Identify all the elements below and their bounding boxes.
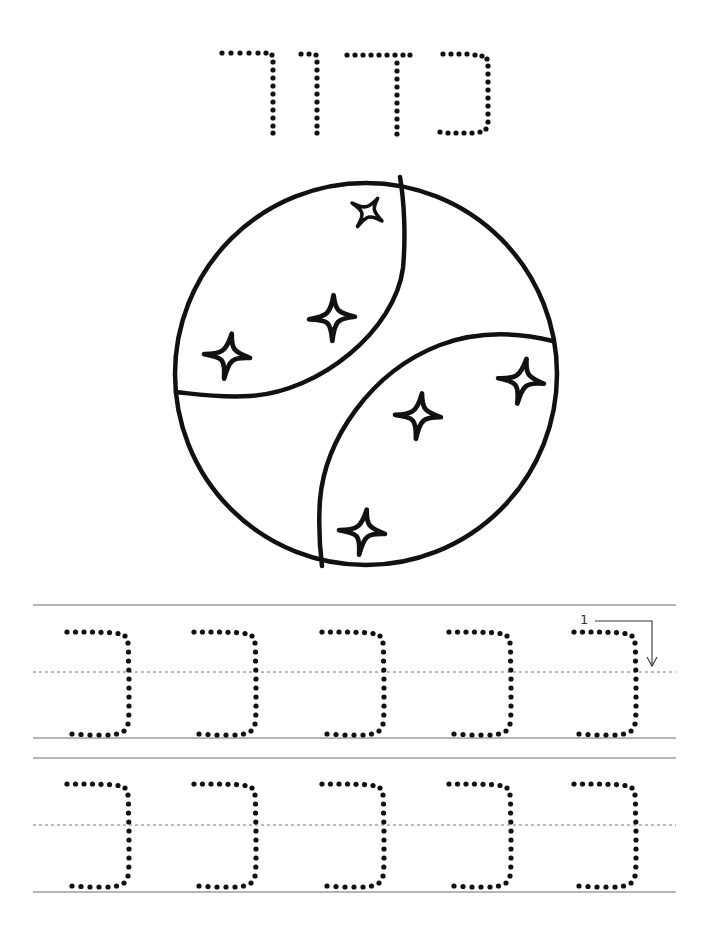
title-letter-resh [219, 50, 275, 135]
stroke-guide-arrow-down-icon [595, 621, 657, 666]
worksheet-canvas [0, 0, 709, 939]
star-icon [335, 505, 389, 559]
star-icon [343, 188, 392, 237]
star-icon [493, 353, 548, 408]
traceable-letter-kaf[interactable] [571, 629, 638, 737]
title-letter-kaf [437, 51, 490, 135]
stroke-step-number: 1 [580, 612, 588, 627]
traceable-letter-kaf[interactable] [571, 781, 638, 889]
traceable-letter-kaf[interactable] [191, 781, 258, 889]
star-icon [308, 294, 357, 343]
ball-seam-upper [176, 177, 404, 397]
traceable-letter-kaf[interactable] [64, 629, 131, 737]
traceable-letter-kaf[interactable] [64, 781, 131, 889]
star-icon [392, 390, 445, 443]
traceable-letter-kaf[interactable] [319, 629, 386, 737]
title-letter-dalet [344, 52, 412, 136]
ball-seam-lower [319, 334, 553, 566]
title-word [219, 50, 490, 136]
ball-stars [200, 188, 549, 559]
traceable-letter-kaf[interactable] [191, 629, 258, 737]
traceable-letter-kaf[interactable] [446, 629, 513, 737]
traceable-letter-kaf[interactable] [319, 781, 386, 889]
title-letter-vav [298, 51, 319, 135]
traceable-letter-kaf[interactable] [446, 781, 513, 889]
practice-row-2 [33, 758, 676, 892]
star-icon [200, 329, 254, 383]
